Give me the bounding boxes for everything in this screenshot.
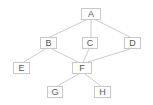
- node-e: E: [13, 62, 30, 74]
- node-b: B: [40, 37, 57, 49]
- node-g: G: [47, 86, 63, 98]
- node-h: H: [94, 86, 111, 98]
- edge-f-h: [85, 74, 101, 86]
- node-c: C: [82, 37, 98, 49]
- node-d: D: [124, 37, 141, 49]
- edge-b-f: [52, 49, 78, 62]
- edge-f-g: [57, 74, 79, 86]
- node-a: A: [81, 8, 101, 20]
- edge-c-f: [83, 49, 89, 62]
- edge-d-f: [88, 49, 130, 62]
- edge-a-d: [94, 19, 130, 37]
- edge-b-e: [24, 49, 45, 62]
- edges-layer: [0, 0, 153, 105]
- edge-a-b: [50, 19, 88, 37]
- node-f: F: [72, 62, 92, 74]
